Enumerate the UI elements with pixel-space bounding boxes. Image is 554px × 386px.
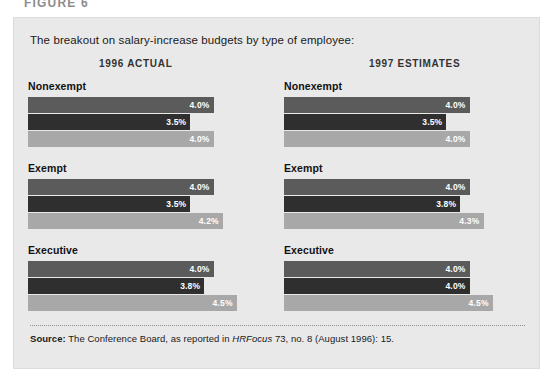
bar: 3.8% xyxy=(284,196,460,212)
bar: 4.0% xyxy=(28,261,214,277)
bar-value-label: 4.3% xyxy=(459,217,479,226)
bar-value-label: 4.0% xyxy=(445,282,465,291)
bar: 4.0% xyxy=(28,97,214,113)
bar-row: 3.5% xyxy=(28,196,271,212)
bar: 4.0% xyxy=(284,131,470,147)
bar-row: 4.0% xyxy=(28,97,271,113)
bar-group-bars: 4.0%3.8%4.5% xyxy=(28,261,271,311)
bar-row: 4.5% xyxy=(284,295,527,311)
bar-row: 4.0% xyxy=(284,261,527,277)
source-text-before: The Conference Board, as reported in xyxy=(66,333,233,344)
bar-group-bars: 4.0%3.8%4.3% xyxy=(284,179,527,229)
bar-group-nonexempt: Nonexempt4.0%3.5%4.0% xyxy=(28,80,271,147)
bar-group-bars: 4.0%3.5%4.2% xyxy=(28,179,271,229)
bar-group-executive: Executive4.0%3.8%4.5% xyxy=(28,244,271,311)
chart-column-1996: Nonexempt4.0%3.5%4.0%Exempt4.0%3.5%4.2%E… xyxy=(28,80,271,326)
bar: 4.2% xyxy=(28,213,223,229)
bar-value-label: 4.0% xyxy=(445,101,465,110)
bar: 4.0% xyxy=(28,179,214,195)
bar-group-label: Nonexempt xyxy=(28,80,271,92)
bar-value-label: 4.0% xyxy=(445,135,465,144)
bar-value-label: 4.5% xyxy=(469,299,489,308)
chart-column-1997: Nonexempt4.0%3.5%4.0%Exempt4.0%3.8%4.3%E… xyxy=(284,80,527,326)
bar: 4.0% xyxy=(284,261,470,277)
bar-value-label: 3.5% xyxy=(166,200,186,209)
bar-value-label: 4.0% xyxy=(189,183,209,192)
bar-value-label: 4.0% xyxy=(189,135,209,144)
bar-group-label: Exempt xyxy=(28,162,271,174)
bar-group-label: Exempt xyxy=(284,162,527,174)
column-header-1997: 1997 ESTIMATES xyxy=(369,58,460,69)
bar-value-label: 4.0% xyxy=(445,265,465,274)
bar: 4.0% xyxy=(284,278,470,294)
bar-row: 4.0% xyxy=(28,261,271,277)
bar: 3.5% xyxy=(28,196,190,212)
bar-row: 4.0% xyxy=(28,179,271,195)
panel-intro-text: The breakout on salary-increase budgets … xyxy=(30,34,354,46)
bar-row: 4.0% xyxy=(28,131,271,147)
source-publication: HRFocus xyxy=(232,333,272,344)
bar-group-exempt: Exempt4.0%3.8%4.3% xyxy=(284,162,527,229)
bar-value-label: 4.5% xyxy=(213,299,233,308)
bar-value-label: 3.5% xyxy=(422,118,442,127)
bar-group-label: Nonexempt xyxy=(284,80,527,92)
bar-group-bars: 4.0%4.0%4.5% xyxy=(284,261,527,311)
source-separator xyxy=(30,325,525,326)
bar-group-exempt: Exempt4.0%3.5%4.2% xyxy=(28,162,271,229)
bar-group-label: Executive xyxy=(284,244,527,256)
bar-row: 4.2% xyxy=(28,213,271,229)
bar: 4.5% xyxy=(284,295,493,311)
bar: 3.8% xyxy=(28,278,204,294)
bar-value-label: 4.0% xyxy=(189,101,209,110)
bar: 3.5% xyxy=(28,114,190,130)
bar: 4.0% xyxy=(28,131,214,147)
bar-value-label: 4.2% xyxy=(199,217,219,226)
column-header-1996: 1996 ACTUAL xyxy=(99,58,172,69)
bar-row: 3.5% xyxy=(284,114,527,130)
bar-value-label: 3.5% xyxy=(166,118,186,127)
bar-row: 3.5% xyxy=(28,114,271,130)
bar: 4.0% xyxy=(284,97,470,113)
bar-row: 4.3% xyxy=(284,213,527,229)
figure-heading: FIGURE 6 xyxy=(24,0,89,8)
bar: 4.5% xyxy=(28,295,237,311)
bar-row: 3.8% xyxy=(284,196,527,212)
bar-value-label: 4.0% xyxy=(189,265,209,274)
figure-panel: The breakout on salary-increase budgets … xyxy=(13,17,540,369)
bar-row: 4.0% xyxy=(284,97,527,113)
bar-value-label: 3.8% xyxy=(180,282,200,291)
source-text-after: 73, no. 8 (August 1996): 15. xyxy=(272,333,394,344)
bar-row: 3.8% xyxy=(28,278,271,294)
bar-group-label: Executive xyxy=(28,244,271,256)
bar-group-bars: 4.0%3.5%4.0% xyxy=(28,97,271,147)
bar-group-nonexempt: Nonexempt4.0%3.5%4.0% xyxy=(284,80,527,147)
bar-group-executive: Executive4.0%4.0%4.5% xyxy=(284,244,527,311)
bar-row: 4.0% xyxy=(284,278,527,294)
bar-value-label: 3.8% xyxy=(436,200,456,209)
bar-row: 4.5% xyxy=(28,295,271,311)
bar-group-bars: 4.0%3.5%4.0% xyxy=(284,97,527,147)
bar-value-label: 4.0% xyxy=(445,183,465,192)
source-note: Source: The Conference Board, as reporte… xyxy=(30,333,394,344)
bar: 4.3% xyxy=(284,213,484,229)
bar: 3.5% xyxy=(284,114,446,130)
source-label: Source: xyxy=(30,333,66,344)
bar: 4.0% xyxy=(284,179,470,195)
bar-row: 4.0% xyxy=(284,131,527,147)
bar-row: 4.0% xyxy=(284,179,527,195)
